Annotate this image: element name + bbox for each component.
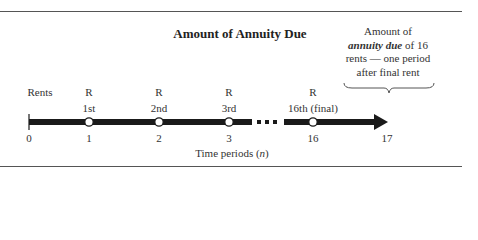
payment-point xyxy=(155,118,163,126)
period-number: 2 xyxy=(156,132,162,144)
rent-symbol: R xyxy=(225,86,232,98)
curly-brace-icon xyxy=(344,83,434,93)
rent-symbol: R xyxy=(309,86,316,98)
payment-point xyxy=(85,118,93,126)
timeline-bar-left xyxy=(29,119,252,125)
timeline-bar-right xyxy=(284,119,376,125)
axis-label: Time periods (n) xyxy=(195,147,269,159)
period-number: 3 xyxy=(226,132,232,144)
period-number: 17 xyxy=(382,132,393,144)
ellipsis-dot xyxy=(257,120,261,124)
period-number: 16 xyxy=(308,132,319,144)
payment-ordinal: 2nd xyxy=(151,102,168,114)
period-number: 0 xyxy=(26,132,32,144)
ellipsis-dot xyxy=(265,120,269,124)
rent-symbol: R xyxy=(85,86,92,98)
payment-point xyxy=(225,118,233,126)
rent-symbol: R xyxy=(155,86,162,98)
payment-ordinal: 16th (final) xyxy=(288,102,338,114)
rents-label: Rents xyxy=(27,86,52,98)
ellipsis-dot xyxy=(273,120,277,124)
payment-ordinal: 3rd xyxy=(222,102,237,114)
payment-point xyxy=(309,118,317,126)
arrow-head-icon xyxy=(374,114,388,130)
bottom-rule xyxy=(0,166,462,167)
payment-ordinal: 1st xyxy=(83,102,96,114)
period-number: 1 xyxy=(86,132,92,144)
